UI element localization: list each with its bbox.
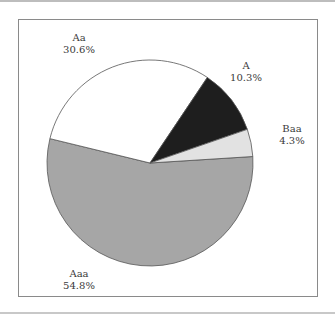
label-aa: Aa 30.6% <box>49 32 109 56</box>
label-baa-pct: 4.3% <box>262 135 322 147</box>
label-aaa-pct: 54.8% <box>49 280 109 292</box>
label-aaa-name: Aaa <box>49 268 109 280</box>
label-a-pct: 10.3% <box>216 72 276 84</box>
label-aa-name: Aa <box>49 32 109 44</box>
label-aaa: Aaa 54.8% <box>49 268 109 292</box>
bottom-rule <box>0 312 335 314</box>
label-aa-pct: 30.6% <box>49 44 109 56</box>
label-baa: Baa 4.3% <box>262 123 322 147</box>
label-baa-name: Baa <box>262 123 322 135</box>
pie-slices <box>47 60 253 266</box>
label-a-name: A <box>216 60 276 72</box>
label-a: A 10.3% <box>216 60 276 84</box>
